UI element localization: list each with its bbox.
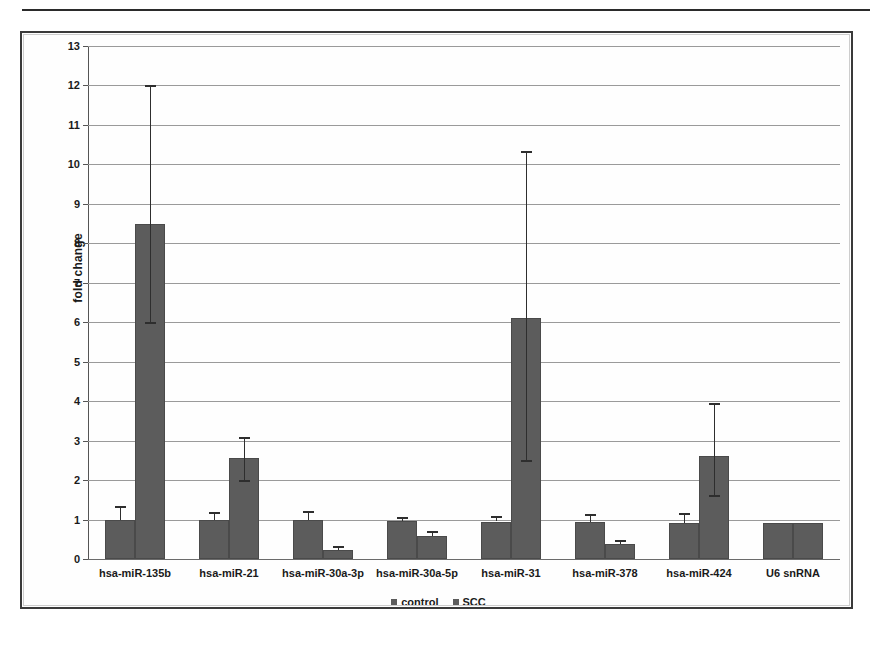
y-tick-label: 3 (74, 435, 80, 447)
page-top-rule (22, 9, 870, 11)
bar-scc-hsa-mir-30a-5p (417, 536, 447, 559)
x-axis-label-u6-snrna: U6 snRNA (766, 567, 820, 579)
error-bar (526, 151, 527, 461)
error-bar-cap-upper (397, 517, 408, 519)
legend-item-scc: SCC (453, 595, 486, 608)
y-tick-mark (83, 85, 88, 86)
x-axis-label-hsa-mir-378: hsa-miR-378 (572, 567, 637, 579)
error-bar-cap-lower (145, 322, 156, 324)
legend-label: control (401, 596, 438, 608)
bar-scc-hsa-mir-30a-3p (323, 550, 353, 559)
gridline (88, 559, 840, 560)
x-axis-label-hsa-mir-135b: hsa-miR-135b (99, 567, 171, 579)
error-bar-cap-lower (521, 460, 532, 462)
legend-swatch-icon (453, 599, 459, 605)
error-bar-cap-upper (427, 531, 438, 533)
y-tick-label: 12 (68, 79, 80, 91)
error-bar-cap-lower (709, 495, 720, 497)
y-tick-mark (83, 164, 88, 165)
figure-frame: fold change 012345678910111213 hsa-miR-1… (20, 31, 853, 609)
y-tick-label: 5 (74, 356, 80, 368)
bar-control-hsa-mir-30a-3p (293, 520, 323, 559)
y-axis-title: fold change (71, 208, 85, 328)
x-axis-label-hsa-mir-21: hsa-miR-21 (199, 567, 258, 579)
y-tick-label: 8 (74, 237, 80, 249)
legend-label: SCC (463, 596, 486, 608)
bar-control-hsa-mir-424 (669, 523, 699, 559)
y-tick-label: 2 (74, 474, 80, 486)
y-tick-mark (83, 441, 88, 442)
x-axis-label-hsa-mir-30a-5p: hsa-miR-30a-5p (376, 567, 458, 579)
y-tick-mark (83, 125, 88, 126)
bar-control-hsa-mir-31 (481, 522, 511, 559)
error-bar-cap-upper (585, 514, 596, 516)
chart-legend: controlSCC (22, 595, 855, 608)
y-tick-mark (83, 401, 88, 402)
y-tick-label: 6 (74, 316, 80, 328)
gridline (88, 322, 840, 323)
bar-control-u6-snrna (763, 523, 793, 559)
gridline (88, 46, 840, 47)
x-axis-label-hsa-mir-30a-3p: hsa-miR-30a-3p (282, 567, 364, 579)
error-bar-cap-lower (239, 480, 250, 482)
y-tick-mark (83, 559, 88, 560)
gridline (88, 164, 840, 165)
error-bar (120, 506, 121, 520)
y-tick-mark (83, 362, 88, 363)
bar-control-hsa-mir-378 (575, 522, 605, 559)
gridline (88, 204, 840, 205)
error-bar-cap-upper (209, 512, 220, 514)
error-bar-cap-upper (709, 403, 720, 405)
gridline (88, 125, 840, 126)
error-bar-cap-upper (333, 546, 344, 548)
y-tick-label: 9 (74, 198, 80, 210)
bar-scc-hsa-mir-378 (605, 544, 635, 559)
bar-control-hsa-mir-21 (199, 520, 229, 559)
bar-scc-u6-snrna (793, 523, 823, 559)
gridline (88, 362, 840, 363)
error-bar-cap-upper (239, 437, 250, 439)
y-tick-mark (83, 283, 88, 284)
error-bar-cap-upper (303, 511, 314, 513)
error-bar-cap-upper (491, 516, 502, 518)
error-bar (150, 85, 151, 322)
y-tick-label: 10 (68, 158, 80, 170)
y-tick-mark (83, 46, 88, 47)
error-bar-cap-upper (615, 540, 626, 542)
gridline (88, 243, 840, 244)
y-tick-mark (83, 243, 88, 244)
y-tick-mark (83, 204, 88, 205)
y-tick-label: 4 (74, 395, 80, 407)
x-axis-label-hsa-mir-31: hsa-miR-31 (481, 567, 540, 579)
error-bar-cap-upper (115, 506, 126, 508)
legend-swatch-icon (391, 599, 397, 605)
bar-control-hsa-mir-135b (105, 520, 135, 559)
error-bar-cap-upper (679, 513, 690, 515)
bar-control-hsa-mir-30a-5p (387, 521, 417, 559)
y-tick-label: 11 (68, 119, 80, 131)
y-tick-label: 0 (74, 553, 80, 565)
x-axis-label-hsa-mir-424: hsa-miR-424 (666, 567, 731, 579)
gridline (88, 85, 840, 86)
bar-chart: fold change 012345678910111213 hsa-miR-1… (22, 33, 855, 611)
y-tick-label: 7 (74, 277, 80, 289)
error-bar-cap-upper (521, 151, 532, 153)
error-bar (714, 403, 715, 495)
y-tick-label: 1 (74, 514, 80, 526)
legend-item-control: control (391, 595, 438, 608)
gridline (88, 441, 840, 442)
error-bar (244, 437, 245, 480)
gridline (88, 283, 840, 284)
plot-area: 012345678910111213 (88, 46, 840, 559)
gridline (88, 401, 840, 402)
y-tick-mark (83, 480, 88, 481)
y-tick-mark (83, 322, 88, 323)
error-bar-cap-upper (145, 85, 156, 87)
y-tick-mark (83, 520, 88, 521)
y-tick-label: 13 (68, 40, 80, 52)
